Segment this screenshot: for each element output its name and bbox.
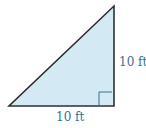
horizontal-side-label: 10 ft [56,110,85,124]
vertical-side-label: 10 ft [119,55,146,69]
triangle-diagram: 10 ft 10 ft [0,0,146,128]
right-triangle [9,6,114,106]
